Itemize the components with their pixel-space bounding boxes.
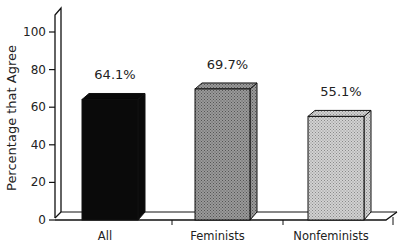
y-tick-label: 100 xyxy=(23,25,46,39)
bar-nonfeminists xyxy=(308,110,371,220)
y-axis xyxy=(55,8,61,218)
bar-chart: 020406080100 64.1%All69.7%Feminists55.1%… xyxy=(0,0,402,249)
category-label: Nonfeminists xyxy=(293,229,368,243)
y-axis-title: Percentage that Agree xyxy=(4,45,19,191)
bar-all xyxy=(82,93,145,220)
category-label: All xyxy=(98,229,112,243)
y-tick-label: 40 xyxy=(31,138,46,152)
bar-feminists xyxy=(195,83,257,220)
y-tick-label: 20 xyxy=(31,175,46,189)
value-label: 69.7% xyxy=(207,57,248,72)
bars: 64.1%All69.7%Feminists55.1%Nonfeminists xyxy=(82,57,371,243)
value-label: 64.1% xyxy=(94,67,135,82)
y-tick-label: 80 xyxy=(31,63,46,77)
category-label: Feminists xyxy=(190,229,244,243)
y-tick-label: 0 xyxy=(38,213,46,227)
y-tick-label: 60 xyxy=(31,100,46,114)
value-label: 55.1% xyxy=(320,84,361,99)
y-ticks: 020406080100 xyxy=(23,25,55,227)
